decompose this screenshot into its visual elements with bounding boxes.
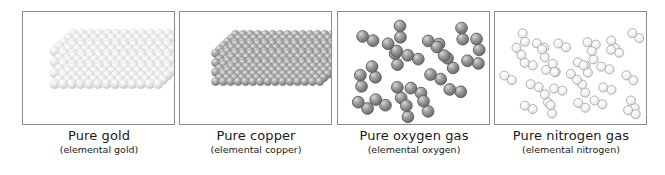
- panel-cell-pure-copper: Pure copper (elemental copper): [176, 0, 336, 175]
- caption-pure-gold: Pure gold (elemental gold): [19, 128, 179, 156]
- caption-main-pure-copper: Pure copper: [176, 128, 336, 144]
- substance-comparison-figure: Pure gold (elemental gold) Pure copper (…: [0, 0, 665, 175]
- nitrogen-molecules-illustration: [495, 12, 646, 124]
- panel-cell-pure-oxygen-gas: Pure oxygen gas (elemental oxygen): [334, 0, 494, 175]
- caption-sub-pure-copper: (elemental copper): [176, 144, 336, 156]
- illustration-panel-pure-copper: [179, 11, 332, 125]
- caption-main-pure-oxygen-gas: Pure oxygen gas: [334, 128, 494, 144]
- illustration-panel-pure-oxygen-gas: [337, 11, 490, 125]
- caption-sub-pure-gold: (elemental gold): [19, 144, 179, 156]
- illustration-panel-pure-gold: [22, 11, 175, 125]
- oxygen-molecules-illustration: [338, 12, 489, 124]
- panel-cell-pure-nitrogen-gas: Pure nitrogen gas (elemental nitrogen): [491, 0, 651, 175]
- gold-lattice-illustration: [23, 12, 174, 124]
- illustration-panel-pure-nitrogen-gas: [494, 11, 647, 125]
- caption-pure-nitrogen-gas: Pure nitrogen gas (elemental nitrogen): [491, 128, 651, 156]
- caption-main-pure-gold: Pure gold: [19, 128, 179, 144]
- caption-pure-oxygen-gas: Pure oxygen gas (elemental oxygen): [334, 128, 494, 156]
- caption-pure-copper: Pure copper (elemental copper): [176, 128, 336, 156]
- caption-sub-pure-nitrogen-gas: (elemental nitrogen): [491, 144, 651, 156]
- panel-cell-pure-gold: Pure gold (elemental gold): [19, 0, 179, 175]
- copper-lattice-illustration: [180, 12, 331, 124]
- caption-main-pure-nitrogen-gas: Pure nitrogen gas: [491, 128, 651, 144]
- caption-sub-pure-oxygen-gas: (elemental oxygen): [334, 144, 494, 156]
